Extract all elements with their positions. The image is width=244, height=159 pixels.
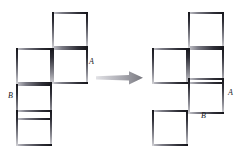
square-edge-top <box>152 110 188 112</box>
square-R4 <box>188 78 224 114</box>
square-edge-top <box>188 12 224 14</box>
square-edge-left <box>152 48 154 84</box>
square-edge-left <box>188 12 190 48</box>
right-label-b: B <box>201 112 206 120</box>
square-edge-right <box>222 78 224 114</box>
square-edge-top <box>152 48 188 50</box>
square-edge-left <box>152 110 154 146</box>
square-edge-bottom <box>152 144 188 146</box>
square-edge-right <box>222 12 224 48</box>
target-shape-group: A B <box>0 0 244 159</box>
square-edge-bottom <box>152 82 188 84</box>
square-R2 <box>152 48 188 84</box>
square-R5 <box>152 110 188 146</box>
square-edge-right <box>186 110 188 146</box>
square-edge-left <box>188 78 190 114</box>
square-R1 <box>188 12 224 48</box>
square-edge-top <box>188 78 224 80</box>
square-edge-bottom <box>188 112 224 114</box>
right-label-a: A <box>228 89 233 97</box>
puzzle-figure: A B <box>0 0 244 159</box>
square-edge-top <box>188 48 224 50</box>
